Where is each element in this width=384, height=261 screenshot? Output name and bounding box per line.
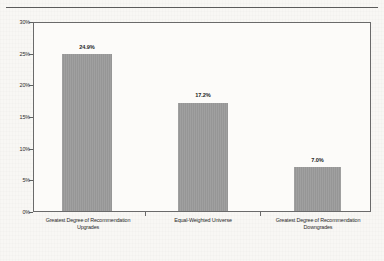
bar-upgrades bbox=[62, 54, 112, 211]
y-axis-label-25: 25% bbox=[4, 51, 30, 57]
x-axis-label-equal-weighted-line1: Equal-Weighted Universe bbox=[148, 217, 258, 224]
bar-value-upgrades: 24.9% bbox=[62, 44, 112, 51]
y-axis-tick-25 bbox=[29, 54, 33, 55]
y-axis-tick-20 bbox=[29, 85, 33, 86]
y-axis-label-5: 5% bbox=[4, 177, 30, 183]
x-axis-tick-2 bbox=[260, 212, 261, 216]
y-axis-label-10: 10% bbox=[4, 146, 30, 152]
y-axis-tick-0 bbox=[29, 212, 33, 213]
y-axis-label-20: 20% bbox=[4, 82, 30, 88]
y-axis-label-30: 30% bbox=[4, 19, 30, 25]
bar-downgrades bbox=[294, 167, 341, 211]
header-rule bbox=[6, 7, 378, 8]
x-axis-label-downgrades-line2: Downgrades bbox=[262, 224, 374, 231]
x-axis-label-equal-weighted: Equal-Weighted Universe bbox=[148, 217, 258, 224]
y-axis-tick-10 bbox=[29, 149, 33, 150]
y-axis-tick-15 bbox=[29, 117, 33, 118]
bar-value-equal-weighted: 17.2% bbox=[178, 92, 228, 99]
x-axis-label-downgrades: Greatest Degree of Recommendation Downgr… bbox=[262, 217, 374, 231]
y-axis-tick-5 bbox=[29, 180, 33, 181]
y-axis-label-15: 15% bbox=[4, 114, 30, 120]
chart-page: 30% 25% 20% 15% 10% 5% 0% 24.9% 17.2% 7.… bbox=[0, 0, 384, 261]
bar-equal-weighted bbox=[178, 103, 228, 211]
y-axis-tick-30 bbox=[29, 22, 33, 23]
x-axis-label-upgrades-line2: Upgrades bbox=[32, 224, 144, 231]
x-axis-label-upgrades-line1: Greatest Degree of Recommendation bbox=[32, 217, 144, 224]
y-axis-label-0: 0% bbox=[4, 209, 30, 215]
x-axis-label-downgrades-line1: Greatest Degree of Recommendation bbox=[262, 217, 374, 224]
x-axis-label-upgrades: Greatest Degree of Recommendation Upgrad… bbox=[32, 217, 144, 231]
bar-value-downgrades: 7.0% bbox=[293, 157, 342, 164]
x-axis-tick-1 bbox=[145, 212, 146, 216]
